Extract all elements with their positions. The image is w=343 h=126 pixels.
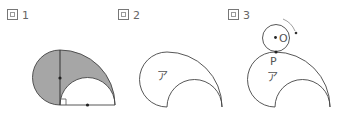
circle-center-dot	[274, 36, 277, 39]
circle-center-label: O	[279, 32, 288, 45]
figure-1	[32, 50, 115, 107]
figure-3: O P ア	[248, 19, 330, 107]
point-p-dot	[274, 50, 277, 53]
region-label: ア	[267, 71, 278, 84]
rotation-arrow-icon	[283, 19, 295, 31]
region-outline	[248, 52, 330, 107]
center-dot-vertical	[58, 76, 61, 79]
center-dot-base	[86, 103, 89, 106]
point-p-label: P	[270, 55, 277, 68]
arrowhead-dot	[295, 32, 298, 35]
diagram-canvas: ア O P ア	[0, 0, 343, 126]
region-outline	[140, 52, 222, 107]
shaded-region	[32, 50, 115, 105]
right-angle-mark	[60, 99, 66, 105]
region-label: ア	[157, 70, 168, 83]
figure-2: ア	[140, 52, 222, 107]
